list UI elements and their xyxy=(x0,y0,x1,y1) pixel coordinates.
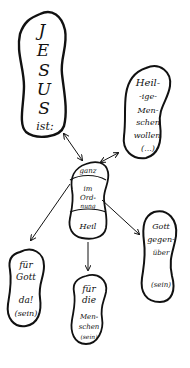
center-heil: Heil xyxy=(72,223,104,231)
heilige-line-4: schen xyxy=(128,119,168,127)
center-nung: nung xyxy=(72,203,104,209)
heilige-line-2: -ige- xyxy=(128,93,168,101)
jesus-ist: ist: xyxy=(28,121,62,132)
center-divider-mid xyxy=(70,209,106,212)
fuer-menschen-line-2: die xyxy=(74,296,104,305)
fuer-menschen-line-1: für xyxy=(74,285,104,294)
fuer-menschen-line-4: schen xyxy=(74,324,104,331)
center-ord: Ord- xyxy=(72,195,104,202)
fuer-gott-line-2: Gott xyxy=(10,273,42,282)
fuer-gott-line-3: da! xyxy=(10,296,42,305)
jesus-letter-s1: S xyxy=(36,62,52,79)
heilige-line-6: (...) xyxy=(128,145,168,153)
heilige-line-5: wollen xyxy=(127,132,167,140)
gott-gegenueber-line-1: Gott xyxy=(146,223,176,231)
jesus-letter-u: U xyxy=(36,81,52,98)
edge-center-heilige xyxy=(101,153,118,162)
edge-center-fuer-gott xyxy=(31,184,70,240)
fuer-gott-line-4: (sein) xyxy=(10,310,42,318)
gott-gegenueber-line-3: über xyxy=(146,250,176,257)
gott-gegenueber-line-2: gegen- xyxy=(146,236,176,244)
gott-gegenueber-line-4: (sein) xyxy=(146,282,176,289)
jesus-letter-s2: S xyxy=(36,100,52,117)
center-ganz: ganz xyxy=(72,168,104,175)
fuer-gott-line-1: für xyxy=(10,261,42,270)
heilige-line-1: Heil- xyxy=(128,78,168,88)
center-im: im xyxy=(72,186,104,193)
jesus-letter-e: E xyxy=(35,42,51,59)
fuer-menschen-line-3: Men- xyxy=(74,314,104,321)
fuer-menschen-line-5: (sein) xyxy=(74,334,104,340)
heilige-line-3: Men- xyxy=(128,107,168,115)
jesus-letter-j: J xyxy=(34,22,50,39)
edge-center-gott-gegenueber xyxy=(102,200,139,234)
edge-center-jesus xyxy=(64,134,82,160)
center-divider-top xyxy=(70,176,106,181)
